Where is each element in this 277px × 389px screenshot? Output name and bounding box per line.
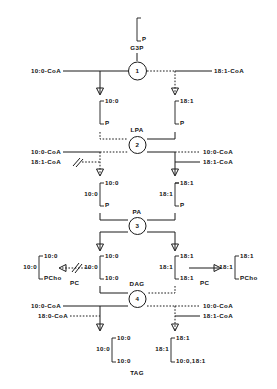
- lpa-left-bracket-top: 10:0: [105, 98, 119, 104]
- tag-left-prefix: 10:0: [96, 346, 110, 352]
- dag-left-input-1: 10:0-CoA: [31, 303, 61, 309]
- g3p-label: G3P: [130, 45, 143, 51]
- enzyme-3-number: 3: [136, 223, 140, 229]
- pc-right-bracket-top: 18:1: [240, 253, 254, 259]
- pa-left-stem: [100, 213, 128, 220]
- dag-right-output-2: 18:1-CoA: [203, 313, 233, 319]
- pc-left-label: PC: [70, 280, 79, 286]
- lpa-left-input-2: 18:1-CoA: [31, 159, 61, 165]
- lpa-right-bracket-bottom: P: [180, 120, 184, 126]
- step1-left-substrate: 10:0-CoA: [31, 68, 61, 74]
- pc-right-label: PC: [200, 280, 209, 286]
- dag-right-stem: [147, 286, 175, 293]
- dag-left-bracket-top: 10:0: [105, 253, 119, 259]
- step1-right-substrate: 18:1-CoA: [214, 68, 244, 74]
- lpa-right-output-1: 10:0-CoA: [203, 149, 233, 155]
- lpa-label: LPA: [131, 127, 144, 133]
- pa-right-prefix: 18:1: [159, 191, 173, 197]
- pa-right-out: [147, 232, 175, 250]
- lpa-left-input-1: 10:0-CoA: [31, 149, 61, 155]
- lpa-right-output-2: 18:1-CoA: [203, 159, 233, 165]
- dag-label: DAG: [130, 281, 145, 287]
- pa-left-bracket: [100, 183, 104, 206]
- tag-left-bracket: [112, 338, 116, 362]
- dag-left-bracket-bottom: 10:0: [105, 275, 119, 281]
- lpa-block-slash-1: [73, 158, 80, 166]
- enzyme-1-number: 1: [136, 68, 140, 74]
- tag-right-prefix: 18:1: [155, 346, 169, 352]
- pa-left-out: [100, 232, 128, 250]
- lpa-left-bracket: [100, 101, 104, 124]
- pa-left-prefix: 10:0: [84, 191, 98, 197]
- tag-right-bracket: [171, 338, 175, 362]
- lpa-left-stem: [100, 132, 128, 139]
- dag-right-bracket: [175, 256, 179, 279]
- tag-left-bracket-top: 10:0: [117, 335, 131, 341]
- enzyme-2-number: 2: [136, 142, 140, 148]
- pathway-lines: [0, 0, 277, 389]
- pa-left-bracket-bottom: P: [105, 202, 109, 208]
- pa-right-bracket: [175, 183, 179, 206]
- g3p-bracket-bottom-label: P: [142, 36, 146, 42]
- enzyme-4-number: 4: [136, 296, 140, 302]
- pa-right-stem: [147, 213, 175, 220]
- lpa-right-bracket-top: 18:1: [180, 98, 194, 104]
- tag-left-bracket-bottom: 10:0: [117, 358, 131, 364]
- dag-left-bracket: [100, 256, 104, 279]
- pc-right-prefix: 18:1: [219, 264, 233, 270]
- dag-right-output-1: 10:0-CoA: [203, 303, 233, 309]
- tag-right-bracket-top: 18:1: [176, 335, 190, 341]
- pc-left-bracket: [39, 256, 43, 279]
- pa-right-bracket-top: 18:1: [180, 180, 194, 186]
- dag-left-prefix: 10:0: [84, 264, 98, 270]
- lpa-right-bracket: [175, 101, 179, 124]
- dag-right-prefix: 18:1: [159, 264, 173, 270]
- pathway-diagram: P G3P 10:0-CoA 18:1-CoA 1 10:0 P 18:1 P …: [0, 0, 277, 389]
- dag-right-bracket-bottom: 18:1: [180, 275, 194, 281]
- lpa-right-stem: [147, 132, 175, 139]
- pc-right-bracket-bottom: PCho: [240, 275, 258, 281]
- dag-right-arrowhead: [172, 324, 179, 331]
- pa-label: PA: [133, 209, 142, 215]
- pc-left-bracket-top: 10:0: [44, 253, 58, 259]
- lpa-left-bracket-bottom: P: [105, 120, 109, 126]
- dag-left-stem: [100, 286, 128, 293]
- pa-right-bracket-bottom: P: [180, 202, 184, 208]
- dag-left-input-2: 18:0-CoA: [38, 313, 68, 319]
- pc-left-prefix: 10:0: [23, 264, 37, 270]
- dag-right-bracket-top: 18:1: [180, 253, 194, 259]
- lpa-block-slash-2: [76, 159, 83, 167]
- pc-right-bracket: [235, 256, 239, 279]
- tag-label: TAG: [130, 370, 144, 376]
- pa-left-bracket-top: 10:0: [105, 180, 119, 186]
- g3p-bracket: [137, 18, 141, 41]
- pc-left-bracket-bottom: PCho: [44, 275, 62, 281]
- tag-right-bracket-bottom: 10:0,18:1: [176, 358, 206, 364]
